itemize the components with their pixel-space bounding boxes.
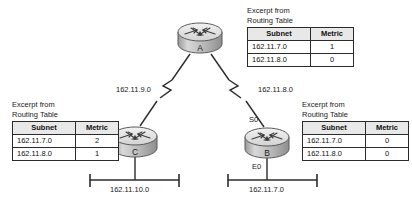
table-row: 162.11.8.0 0: [248, 54, 354, 67]
column-header-subnet: Subnet: [13, 122, 76, 135]
routing-table-router-a: Excerpt from Routing Table Subnet Metric…: [247, 6, 354, 67]
cell-subnet: 162.11.8.0: [303, 148, 366, 161]
table-row: 162.11.7.0 1: [248, 41, 354, 54]
cell-metric: 1: [76, 148, 119, 161]
cell-subnet: 162.11.7.0: [303, 135, 366, 148]
cell-metric: 2: [76, 135, 119, 148]
cell-subnet: 162.11.7.0: [13, 135, 76, 148]
cell-metric: 1: [311, 41, 354, 54]
lan-label-b: 162.11.7.0: [249, 185, 284, 194]
router-a[interactable]: A: [177, 22, 223, 54]
cell-metric: 0: [311, 54, 354, 67]
cell-subnet: 162.11.7.0: [248, 41, 311, 54]
interface-label-s0: S0: [249, 115, 258, 124]
cell-subnet: 162.11.8.0: [13, 148, 76, 161]
routing-table-caption-a: Excerpt from Routing Table: [247, 6, 354, 25]
table-header-row: Subnet Metric: [248, 28, 354, 41]
network-diagram: A C B 162.11.9.: [0, 0, 412, 208]
column-header-subnet: Subnet: [303, 122, 366, 135]
column-header-metric: Metric: [311, 28, 354, 41]
routing-table-b: Subnet Metric 162.11.7.0 0 162.11.8.0 0: [302, 121, 409, 161]
cell-subnet: 162.11.8.0: [248, 54, 311, 67]
table-row: 162.11.7.0 0: [303, 135, 409, 148]
link-label-a-c: 162.11.9.0: [116, 85, 151, 94]
routing-table-router-c: Excerpt from Routing Table Subnet Metric…: [12, 100, 119, 161]
column-header-metric: Metric: [76, 122, 119, 135]
routing-table-caption-c: Excerpt from Routing Table: [12, 100, 119, 119]
lan-label-c: 162.11.10.0: [110, 185, 149, 194]
router-a-label: A: [177, 43, 223, 53]
table-header-row: Subnet Metric: [13, 122, 119, 135]
column-header-metric: Metric: [366, 122, 409, 135]
table-row: 162.11.8.0 1: [13, 148, 119, 161]
interface-label-e0: E0: [252, 162, 261, 171]
cell-metric: 0: [366, 148, 409, 161]
link-label-a-b: 162.11.8.0: [258, 85, 293, 94]
routing-table-caption-b: Excerpt from Routing Table: [302, 100, 409, 119]
routing-table-router-b: Excerpt from Routing Table Subnet Metric…: [302, 100, 409, 161]
column-header-subnet: Subnet: [248, 28, 311, 41]
table-header-row: Subnet Metric: [303, 122, 409, 135]
routing-table-a: Subnet Metric 162.11.7.0 1 162.11.8.0 0: [247, 27, 354, 67]
router-b-label: B: [244, 148, 290, 158]
table-row: 162.11.7.0 2: [13, 135, 119, 148]
table-row: 162.11.8.0 0: [303, 148, 409, 161]
router-b[interactable]: B: [244, 127, 290, 159]
cell-metric: 0: [366, 135, 409, 148]
routing-table-c: Subnet Metric 162.11.7.0 2 162.11.8.0 1: [12, 121, 119, 161]
